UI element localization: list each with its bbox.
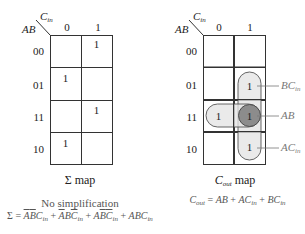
group-label-ab: AB [281,109,294,121]
right-cell-10-1: 1 [234,141,265,153]
cout-equation: Cout = AB + ACin + BCin [175,194,300,207]
right-cell-11-1: 1 [234,110,265,122]
right-cell-11-0: 1 [203,110,234,122]
cout-map-caption: Cout map [185,173,285,188]
right-cell-01-1: 1 [234,80,265,92]
group-label-bcin: BCin [281,79,301,93]
group-label-acin: ACin [281,141,301,155]
